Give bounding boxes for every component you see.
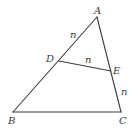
vertex-label-d: D (45, 53, 54, 64)
vertex-label-a: A (93, 5, 101, 16)
segment-label-de: n (85, 54, 91, 65)
vertex-label-e: E (112, 65, 121, 76)
segment-label-ad: n (70, 29, 76, 40)
vertex-label-b: B (7, 115, 15, 126)
triangle-diagram: A B C D E n n n (0, 0, 135, 135)
vertex-label-c: C (119, 115, 127, 126)
segment-label-ec: n (121, 86, 127, 97)
